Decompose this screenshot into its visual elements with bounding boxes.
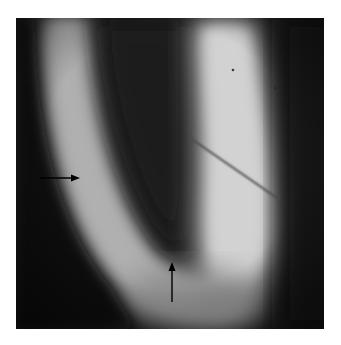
micrograph-rendering [16, 18, 324, 329]
dust-dot [232, 69, 235, 72]
micrograph-image [16, 18, 324, 329]
dust-dot [274, 87, 277, 90]
